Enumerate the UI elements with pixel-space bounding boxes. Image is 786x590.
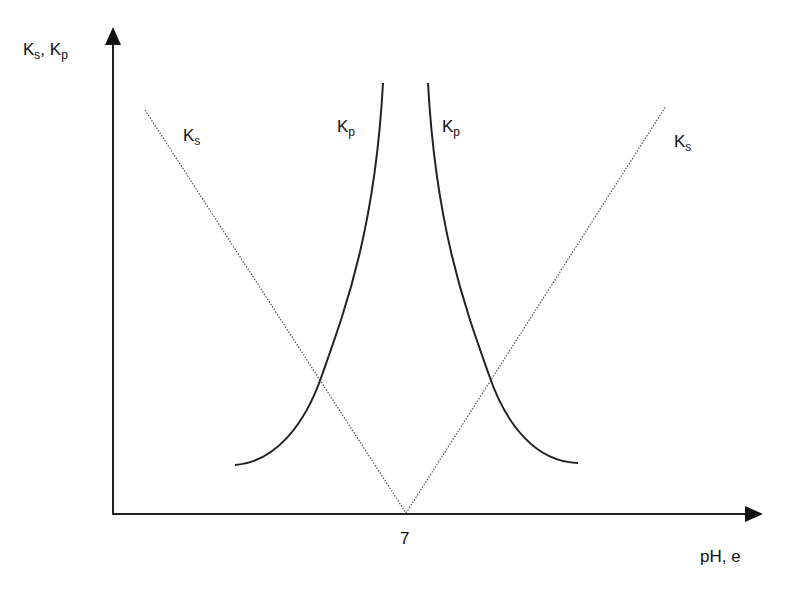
- y-axis-arrow-icon: [105, 27, 121, 45]
- ks-right-line: [406, 106, 666, 513]
- chart-canvas: [0, 0, 786, 590]
- kp-left-curve: [235, 83, 383, 465]
- ks-left-label: Ks: [183, 127, 200, 144]
- ks-left-line: [145, 110, 406, 513]
- x-axis-arrow-icon: [745, 506, 763, 522]
- kp-right-curve: [428, 83, 578, 463]
- x-axis-label: pH, e: [700, 548, 741, 565]
- x-tick-7: 7: [400, 530, 409, 547]
- kp-right-label: Kp: [442, 118, 460, 135]
- y-axis-label: Ks, Kp: [23, 41, 68, 58]
- kp-left-label: Kp: [337, 118, 355, 135]
- ks-right-label: Ks: [674, 133, 691, 150]
